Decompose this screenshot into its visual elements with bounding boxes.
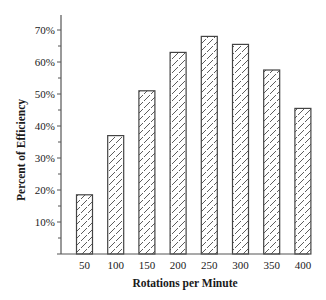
y-axis-title: Percent of Efficiency	[15, 99, 28, 201]
bar-200	[170, 52, 186, 254]
x-axis-title: Rotations per Minute	[132, 277, 237, 290]
x-tick-label: 350	[263, 259, 280, 271]
x-tick-label: 400	[295, 259, 312, 271]
x-tick-label: 200	[170, 259, 187, 271]
x-tick-label: 100	[107, 259, 124, 271]
y-tick-label: 40%	[35, 120, 55, 132]
bar-400	[295, 108, 311, 254]
y-tick-label: 10%	[35, 216, 55, 228]
bar-chart: 10%20%30%40%50%60%70%5010015020025030035…	[0, 0, 326, 300]
bar-350	[264, 70, 280, 254]
x-tick-label: 300	[232, 259, 249, 271]
x-tick-label: 50	[79, 259, 91, 271]
bar-50	[77, 195, 93, 254]
bar-100	[108, 136, 124, 254]
x-tick-label: 250	[201, 259, 218, 271]
bar-250	[201, 36, 217, 254]
y-tick-label: 70%	[35, 24, 55, 36]
bars-group	[77, 36, 311, 254]
bar-150	[139, 91, 155, 254]
y-tick-label: 20%	[35, 184, 55, 196]
y-tick-label: 30%	[35, 152, 55, 164]
bar-300	[233, 44, 249, 254]
x-tick-label: 150	[139, 259, 156, 271]
y-tick-label: 50%	[35, 88, 55, 100]
y-tick-label: 60%	[35, 56, 55, 68]
